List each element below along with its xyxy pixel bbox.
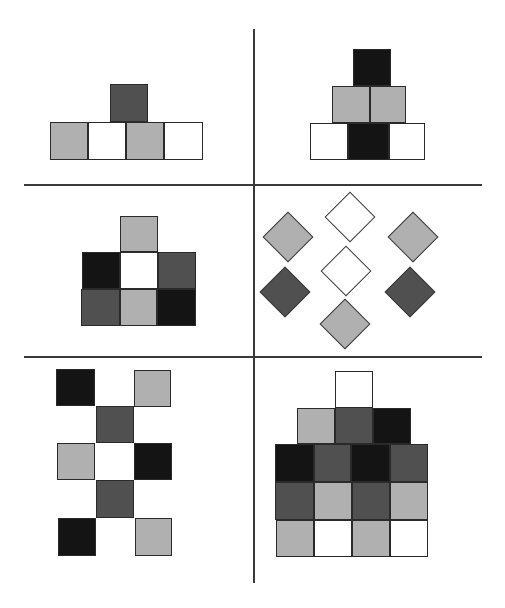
- panel-label: Panel 4: [0, 0, 1, 1]
- light-gray-square: [120, 216, 158, 252]
- white-square: [314, 520, 352, 557]
- pattern-figure: Panel 1Panel 2Panel 3Panel 4Panel 5Panel…: [0, 0, 505, 608]
- light-gray-square: [135, 518, 172, 556]
- dark-gray-square: [335, 407, 373, 444]
- light-gray-square: [314, 482, 352, 520]
- dark-gray-diamond: [385, 267, 436, 318]
- light-gray-square: [120, 289, 157, 326]
- vertical-divider: [253, 29, 255, 583]
- light-gray-square: [297, 408, 335, 444]
- white-square: [390, 520, 428, 557]
- panel-label: Panel 2: [0, 0, 1, 1]
- light-gray-square: [332, 86, 370, 123]
- dark-gray-square: [110, 84, 148, 122]
- light-gray-square: [50, 122, 88, 160]
- black-square: [58, 518, 96, 556]
- light-gray-square: [276, 520, 314, 557]
- light-gray-diamond: [263, 212, 314, 263]
- light-gray-diamond: [388, 212, 439, 263]
- horizontal-divider-bottom: [24, 356, 482, 358]
- white-square: [88, 122, 126, 160]
- white-square: [164, 122, 203, 160]
- panel-label: Panel 1: [0, 0, 1, 1]
- dark-gray-diamond: [260, 267, 311, 318]
- white-diamond: [321, 246, 372, 297]
- white-diamond: [325, 192, 376, 243]
- light-gray-square: [57, 443, 95, 480]
- black-square: [157, 289, 196, 326]
- white-square: [120, 252, 158, 289]
- dark-gray-square: [352, 482, 390, 520]
- dark-gray-square: [314, 444, 351, 482]
- black-square: [56, 369, 95, 406]
- white-square: [310, 123, 348, 160]
- light-gray-diamond: [320, 299, 371, 350]
- light-gray-square: [390, 482, 428, 520]
- dark-gray-square: [158, 252, 196, 289]
- black-square: [134, 443, 172, 480]
- white-square: [389, 123, 425, 160]
- light-gray-square: [370, 86, 406, 123]
- dark-gray-square: [390, 444, 428, 482]
- dark-gray-square: [96, 480, 134, 518]
- dark-gray-square: [96, 406, 134, 443]
- black-square: [82, 252, 120, 289]
- dark-gray-square: [81, 289, 120, 326]
- black-square: [373, 408, 411, 444]
- panel-label: Panel 6: [0, 0, 1, 1]
- white-square: [335, 371, 373, 408]
- black-square: [275, 444, 314, 482]
- dark-gray-square: [275, 482, 314, 520]
- panel-label: Panel 3: [0, 0, 1, 1]
- panel-label: Panel 5: [0, 0, 1, 1]
- light-gray-square: [126, 122, 164, 160]
- horizontal-divider-top: [24, 184, 482, 186]
- light-gray-square: [352, 520, 390, 557]
- black-square: [348, 123, 389, 160]
- black-square: [353, 49, 391, 86]
- black-square: [351, 444, 390, 482]
- light-gray-square: [134, 370, 171, 407]
